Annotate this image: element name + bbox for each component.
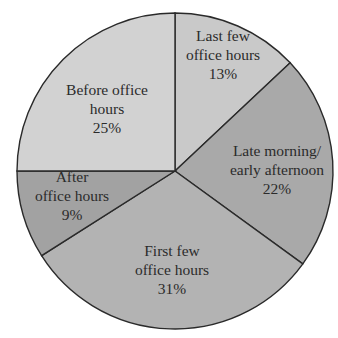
pie-chart: Last fewoffice hours13%Late morning/earl…: [0, 0, 338, 338]
